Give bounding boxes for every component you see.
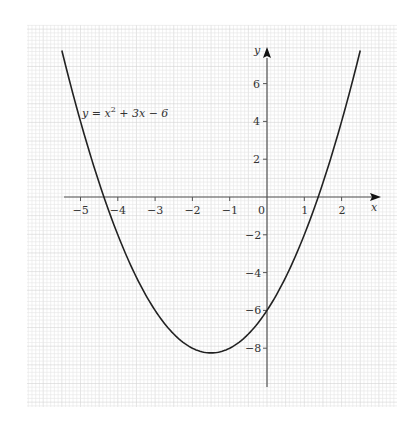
y-tick-label: −4 — [245, 267, 261, 280]
y-tick-label: −8 — [245, 342, 261, 355]
x-tick-label: 1 — [301, 204, 308, 217]
x-tick-label: −3 — [147, 204, 163, 217]
y-tick-label: 6 — [253, 78, 260, 91]
x-tick-label: −2 — [184, 204, 200, 217]
x-tick-label: 2 — [339, 204, 346, 217]
x-tick-label: −1 — [222, 204, 238, 217]
x-tick-label: −4 — [110, 204, 126, 217]
y-axis-label: y — [253, 44, 261, 57]
parabola-plot: −5−4−3−2−1012−8−6−4−2246 y = x2 + 3x − 6… — [0, 0, 420, 425]
x-tick-label: 0 — [258, 204, 265, 217]
x-tick-label: −5 — [73, 204, 89, 217]
equation-label: y = x2 + 3x − 6 — [81, 105, 168, 120]
y-tick-label: −2 — [245, 229, 261, 242]
x-axis-label: x — [371, 201, 378, 214]
y-tick-label: −6 — [245, 304, 261, 317]
y-tick-label: 4 — [253, 115, 260, 128]
tick-marks: −5−4−3−2−1012−8−6−4−2246 — [73, 78, 346, 356]
y-tick-label: 2 — [253, 153, 260, 166]
